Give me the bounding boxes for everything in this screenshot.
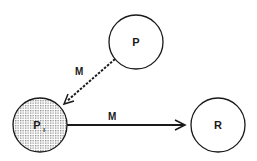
- node-pi: P I: [13, 98, 67, 152]
- edge-pi-to-r: M: [67, 111, 185, 130]
- edge-label-solid: M: [108, 111, 116, 122]
- edge-p-to-pi: M: [64, 59, 115, 104]
- diagram-canvas: M M P P I R: [0, 0, 257, 161]
- node-label: R: [214, 119, 222, 131]
- edge-label-dashed: M: [75, 66, 83, 77]
- node-label: P: [132, 36, 139, 48]
- node-r: R: [191, 98, 245, 152]
- node-label: P: [33, 119, 40, 131]
- node-p: P: [109, 15, 163, 69]
